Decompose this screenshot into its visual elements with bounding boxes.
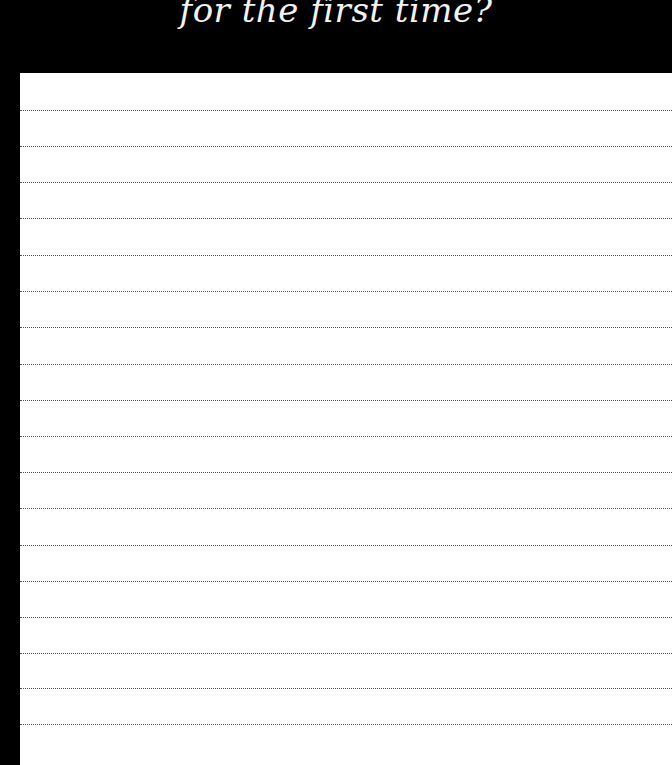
ruled-line: [20, 218, 672, 219]
ruled-line: [20, 472, 672, 473]
ruled-line: [20, 291, 672, 292]
ruled-line: [20, 545, 672, 546]
ruled-line: [20, 400, 672, 401]
ruled-line: [20, 327, 672, 328]
lined-writing-area: [20, 73, 672, 765]
ruled-line: [20, 110, 672, 111]
ruled-line: [20, 364, 672, 365]
ruled-line: [20, 653, 672, 654]
ruled-line: [20, 255, 672, 256]
ruled-line: [20, 617, 672, 618]
ruled-line: [20, 581, 672, 582]
ruled-line: [20, 724, 672, 725]
ruled-line: [20, 436, 672, 437]
journal-page: for the first time?: [0, 0, 672, 765]
ruled-line: [20, 182, 672, 183]
ruled-line: [20, 688, 672, 689]
ruled-line: [20, 146, 672, 147]
page-title: for the first time?: [0, 0, 672, 38]
ruled-line: [20, 508, 672, 509]
